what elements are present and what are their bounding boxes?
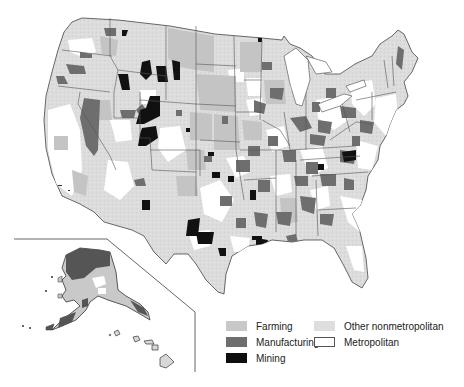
legend-item-farming: Farming [226, 320, 293, 332]
legend-item-metropolitan: Metropolitan [314, 336, 399, 348]
legend-item-mining: Mining [226, 352, 285, 364]
legend-item-manufacturing: Manufacturing [226, 336, 319, 348]
legend-label-mining: Mining [256, 353, 285, 364]
legend: Farming Manufacturing Mining Other nonme… [226, 318, 456, 368]
alaska [22, 248, 150, 330]
legend-label-manufacturing: Manufacturing [256, 337, 319, 348]
legend-label-other-nonmetro: Other nonmetropolitan [344, 321, 444, 332]
farming-swatch [226, 321, 247, 331]
legend-item-other-nonmetro: Other nonmetropolitan [314, 320, 444, 332]
legend-label-metropolitan: Metropolitan [344, 337, 399, 348]
other-nonmetro-swatch [314, 321, 335, 331]
hawaii [109, 330, 174, 368]
mining-swatch [226, 353, 247, 363]
legend-label-farming: Farming [256, 321, 293, 332]
metropolitan-swatch [314, 337, 335, 347]
manufacturing-swatch [226, 337, 247, 347]
